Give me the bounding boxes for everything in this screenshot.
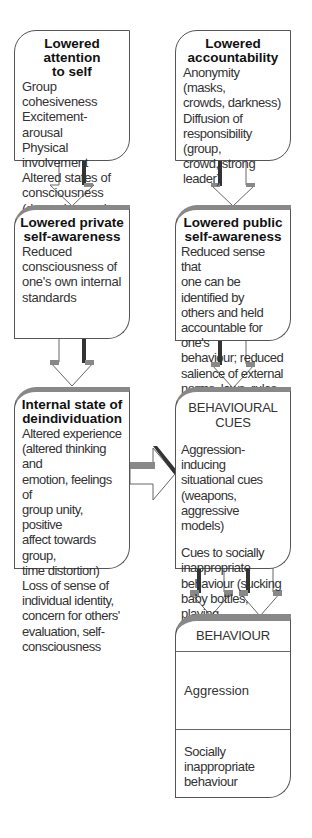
box-title: Lowered private self-awareness [15, 216, 129, 244]
body-line: behaviour (sucking [181, 576, 285, 591]
box-body: Altered experience (altered thinking and… [15, 426, 129, 654]
title-line: Lowered [180, 37, 286, 51]
body-line: salience of external [181, 366, 285, 381]
body-line: Aggression-inducing [181, 442, 285, 472]
behaviour-row-socially-inappropriate: Socially inappropriate behaviour [176, 730, 290, 802]
box-behavioural-cues: BEHAVIOURAL CUES Aggression-inducing sit… [175, 387, 291, 569]
title-line: deindividuation [19, 412, 125, 426]
body-line: behaviour; reduced [181, 350, 285, 365]
row-label: Socially inappropriate behaviour [184, 744, 282, 789]
body-line: one can be identified by [181, 274, 285, 304]
body-line: one's own internal [22, 274, 124, 289]
box-body: Reduced consciousness of one's own inter… [15, 244, 129, 305]
body-line: inappropriate [181, 560, 285, 575]
box-title: BEHAVIOUR [176, 621, 290, 652]
title-line: Lowered private [19, 216, 125, 230]
row-label-line: Socially inappropriate [184, 744, 282, 774]
body-line: time distortion) [22, 563, 124, 578]
arrow-private-to-internal [50, 338, 94, 386]
title-line: accountability [180, 51, 286, 65]
body-line: crowd, strong leader) [183, 156, 285, 186]
cue-group-aggression: Aggression-inducing situational cues (we… [181, 442, 285, 533]
box-body: Reduced sense that one can be identified… [176, 244, 290, 396]
body-line: Physical involvement [22, 140, 124, 170]
body-line: Altered states of [22, 170, 124, 185]
box-lowered-public-self-awareness: Lowered public self-awareness Reduced se… [175, 205, 291, 341]
body-line: (altered thinking and [22, 441, 124, 471]
body-line: responsibility (group, [183, 126, 285, 156]
body-line: (weapons, aggressive [181, 488, 285, 518]
body-line: Group cohesiveness [22, 79, 124, 109]
box-title: Lowered attention to self [15, 37, 129, 79]
title-line: to self [19, 65, 125, 79]
title-line: self-awareness [180, 230, 286, 244]
body-line: concern for others' [22, 608, 124, 623]
box-title: Internal state of deindividuation [15, 398, 129, 426]
body-line: group unity, positive [22, 502, 124, 532]
body-line: consciousness [22, 639, 124, 654]
title-line: Internal state of [19, 398, 125, 412]
body-line: others and held [181, 305, 285, 320]
body-line: evaluation, self- [22, 624, 124, 639]
row-label-line: behaviour [184, 774, 282, 789]
body-line: Anonymity (masks, [183, 65, 285, 95]
box-lowered-attention: Lowered attention to self Group cohesive… [14, 30, 130, 161]
title-line: self-awareness [19, 230, 125, 244]
box-title: Lowered public self-awareness [176, 216, 290, 244]
title-line: Lowered attention [19, 37, 125, 65]
body-line: consciousness of [22, 259, 124, 274]
body-line: Loss of sense of [22, 578, 124, 593]
box-title: Lowered accountability [176, 37, 290, 65]
behaviour-row-aggression: Aggression [176, 652, 290, 730]
body-line: Reduced [22, 244, 124, 259]
body-line: Excitement-arousal [22, 109, 124, 139]
body-line: Altered experience [22, 426, 124, 441]
title-line: Lowered public [180, 216, 286, 230]
body-line: consciousness [22, 185, 124, 200]
body-line: Diffusion of [183, 111, 285, 126]
box-internal-state-deindividuation: Internal state of deindividuation Altere… [14, 387, 130, 569]
body-line: emotion, feelings of [22, 472, 124, 502]
box-behaviour: BEHAVIOUR Aggression Socially inappropri… [175, 614, 291, 798]
body-line: accountable for one's [181, 320, 285, 350]
box-lowered-accountability: Lowered accountability Anonymity (masks,… [175, 30, 291, 161]
body-line: standards [22, 290, 124, 305]
body-line: Cues to socially [181, 545, 285, 560]
box-body: Anonymity (masks, crowds, darkness) Diff… [176, 65, 290, 187]
body-line: Reduced sense that [181, 244, 285, 274]
body-line: crowds, darkness) [183, 95, 285, 110]
row-label: Aggression [184, 683, 249, 698]
box-lowered-private-self-awareness: Lowered private self-awareness Reduced c… [14, 205, 130, 339]
arrow-internal-to-cues [130, 446, 178, 500]
body-line: situational cues [181, 472, 285, 487]
body-line: affect towards group, [22, 532, 124, 562]
box-title: BEHAVIOURAL CUES [176, 400, 290, 430]
body-line: models) [181, 518, 285, 533]
body-line: individual identity, [22, 593, 124, 608]
spacer [181, 533, 285, 545]
